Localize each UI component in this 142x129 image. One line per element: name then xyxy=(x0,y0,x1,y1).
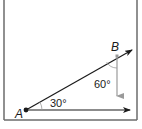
angle-label-30: 30° xyxy=(50,97,67,109)
vector-diagram: A B 30° 60° xyxy=(0,0,142,129)
point-b-label: B xyxy=(111,40,119,54)
point-a-dot xyxy=(24,108,29,113)
point-a-label: A xyxy=(14,107,23,121)
angle-label-60: 60° xyxy=(94,78,111,90)
angle-arc-a xyxy=(40,102,42,110)
point-b-marker xyxy=(116,55,119,58)
vector-ab xyxy=(26,50,132,110)
